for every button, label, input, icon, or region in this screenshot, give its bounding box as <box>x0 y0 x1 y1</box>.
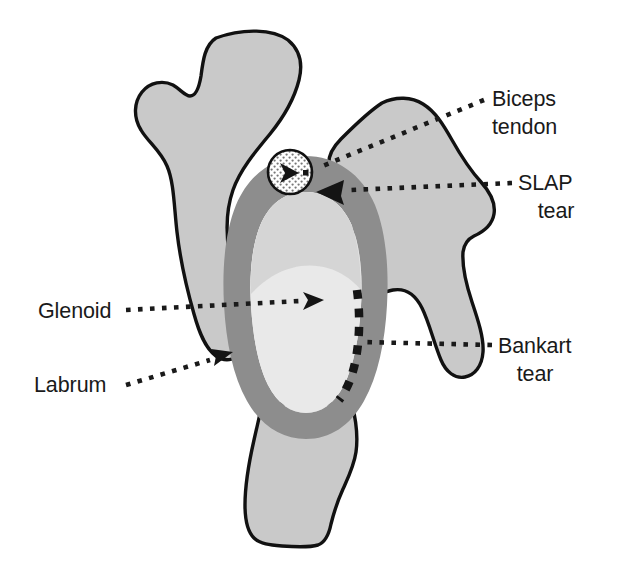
anatomical-diagram-figure: Biceps tendon SLAP tear Bankart tear Gle… <box>0 0 631 561</box>
label-slap-tear-line1: SLAP <box>518 171 573 195</box>
shoulder-glenoid-diagram: Biceps tendon SLAP tear Bankart tear Gle… <box>0 0 631 561</box>
biceps-anchor-arrow-tail <box>303 170 309 176</box>
label-labrum-text: Labrum <box>34 373 106 397</box>
label-biceps-tendon-line1: Biceps <box>492 87 556 111</box>
label-glenoid-text: Glenoid <box>38 299 111 323</box>
label-bankart-tear-line1: Bankart <box>498 334 572 358</box>
label-biceps-tendon-line2: tendon <box>492 115 557 139</box>
label-slap-tear-line2: tear <box>538 199 575 223</box>
label-bankart-tear-line2: tear <box>517 362 554 386</box>
